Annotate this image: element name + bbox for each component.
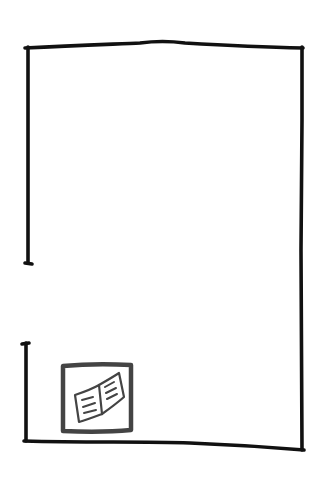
text-line — [107, 394, 117, 399]
frame-top-edge — [25, 42, 303, 49]
wireframe-sketch — [0, 0, 328, 487]
icon-frame — [63, 364, 131, 431]
frame-left-edge-lower-tick — [22, 343, 29, 344]
text-line — [105, 382, 114, 387]
text-line — [83, 403, 95, 407]
text-line — [82, 397, 93, 400]
book-left-page — [75, 385, 102, 422]
frame-right-edge — [301, 47, 302, 450]
text-line — [106, 388, 116, 393]
open-document-icon — [63, 364, 131, 431]
text-line — [84, 410, 96, 413]
frame-left-edge-upper-tick — [25, 263, 32, 264]
frame-bottom-edge — [24, 441, 304, 450]
book-right-page — [99, 373, 124, 414]
